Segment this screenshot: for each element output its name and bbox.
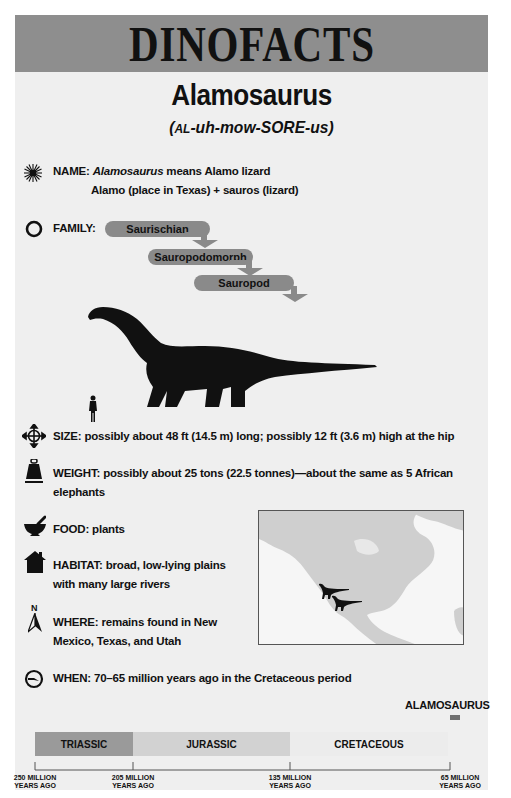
pron-smallcaps: AL (174, 121, 190, 136)
arrow-down-right-icon (175, 232, 220, 248)
food-label: FOOD: (53, 523, 89, 535)
arrow-down-right-icon (220, 260, 265, 276)
arrow-down-right-icon (265, 286, 310, 302)
pronunciation: (AL-uh-mow-SORE-us) (34, 118, 469, 138)
food-text: plants (89, 523, 125, 535)
alamosaurus-silhouette (85, 301, 380, 409)
north-label: N (31, 603, 38, 613)
name-label: NAME: (53, 165, 90, 177)
fact-weight-line2: elephants (53, 483, 105, 502)
name-text: means Alamo lizard (163, 165, 270, 177)
habitat-label: HABITAT: (53, 559, 103, 571)
fact-where-line2: Mexico, Texas, and Utah (53, 632, 181, 651)
name-italic: Alamosaurus (93, 165, 164, 177)
habitat-text: broad, low-lying plains (103, 559, 226, 571)
human-silhouette (88, 395, 98, 423)
fact-name: NAME: Alamosaurus means Alamo lizard (53, 162, 270, 181)
tick-205-mya: 205 MILLION YEARS AGO (103, 774, 163, 790)
fact-habitat: HABITAT: broad, low-lying plains (53, 556, 226, 575)
fact-habitat-line2: with many large rivers (53, 575, 170, 594)
period-triassic-label: TRIASSIC (61, 739, 108, 750)
timeline-axis (33, 760, 453, 772)
tick-line1: 135 MILLION (260, 774, 320, 782)
tick-65-mya: 65 MILLION YEARS AGO (430, 774, 490, 790)
size-text: possibly about 48 ft (14.5 m) long; poss… (81, 430, 454, 442)
pron-rest: -uh-mow-SORE-us) (190, 118, 333, 137)
period-cretaceous-label: CRETACEOUS (334, 739, 403, 750)
tick-line2: YEARS AGO (260, 782, 320, 790)
alamosaurus-timeline-marker (450, 715, 460, 720)
tick-250-mya: 250 MILLION YEARS AGO (5, 774, 65, 790)
mortar-pestle-icon (24, 515, 46, 537)
fact-weight: WEIGHT: possibly about 25 tons (22.5 ton… (53, 464, 453, 483)
house-icon (24, 551, 46, 573)
tick-line2: YEARS AGO (430, 782, 490, 790)
when-text: 70–65 million years ago in the Cretaceou… (91, 672, 352, 684)
dinofacts-card: DINOFACTS Alamosaurus (AL-uh-mow-SORE-us… (15, 15, 488, 790)
tick-line2: YEARS AGO (103, 782, 163, 790)
fact-food: FOOD: plants (53, 520, 125, 539)
weight-text: possibly about 25 tons (22.5 tonnes)—abo… (100, 467, 453, 479)
where-label: WHERE: (53, 616, 98, 628)
tick-line1: 205 MILLION (103, 774, 163, 782)
timeline-marker-label: ALAMOSAURUS (405, 696, 490, 715)
size-label: SIZE: (53, 430, 81, 442)
period-cretaceous: CRETACEOUS (290, 732, 448, 756)
tick-line2: YEARS AGO (5, 782, 65, 790)
fact-name-line2: Alamo (place in Texas) + sauros (lizard) (91, 181, 298, 200)
map-landmass (259, 511, 464, 645)
fact-where: WHERE: remains found in New (53, 613, 217, 632)
family-label: FAMILY: (53, 219, 96, 238)
period-jurassic: JURASSIC (133, 732, 290, 756)
tick-line1: 65 MILLION (430, 774, 490, 782)
period-triassic: TRIASSIC (35, 732, 133, 756)
north-arrow-icon (28, 613, 42, 633)
weight-icon (25, 459, 43, 485)
dinosaur-name: Alamosaurus (39, 79, 465, 112)
banner-title: DINOFACTS (129, 19, 375, 69)
clock-icon (24, 669, 44, 689)
weight-label: WEIGHT: (53, 467, 100, 479)
when-label: WHEN: (53, 672, 91, 684)
fact-size: SIZE: possibly about 48 ft (14.5 m) long… (53, 427, 454, 446)
tick-135-mya: 135 MILLION YEARS AGO (260, 774, 320, 790)
circle-icon (25, 220, 43, 238)
tick-line1: 250 MILLION (5, 774, 65, 782)
where-text: remains found in New (98, 616, 216, 628)
north-america-map (258, 510, 464, 645)
period-jurassic-label: JURASSIC (186, 739, 237, 750)
four-way-arrows-icon (22, 424, 46, 448)
fact-when: WHEN: 70–65 million years ago in the Cre… (53, 669, 352, 688)
banner: DINOFACTS (15, 15, 488, 72)
sunburst-icon (24, 164, 42, 182)
